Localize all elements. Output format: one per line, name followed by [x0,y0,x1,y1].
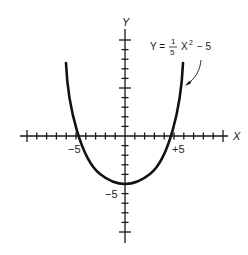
x-tick-label-neg5: −5 [68,143,81,155]
equation-frac-den: 5 [170,48,175,57]
x-axis-label: X [232,130,241,142]
equation-frac-num: 1 [171,37,176,46]
y-tick-label-neg5: −5 [105,188,118,200]
chart-canvas: Y X −5 +5 −5 Y = 1 5 X 2 − 5 [0,0,248,255]
equation-tail: − 5 [197,41,212,52]
y-axis-label: Y [122,16,130,28]
annotation-arrow-icon [185,60,201,86]
x-axis [20,130,228,142]
equation-exponent: 2 [189,39,193,46]
parabola-chart: Y X −5 +5 −5 Y = 1 5 X 2 − 5 [0,0,248,255]
equation-var: X [181,41,188,52]
equation-lhs: Y = [150,41,165,52]
x-tick-label-pos5: +5 [172,143,185,155]
equation-label: Y = 1 5 X 2 − 5 [150,37,212,57]
